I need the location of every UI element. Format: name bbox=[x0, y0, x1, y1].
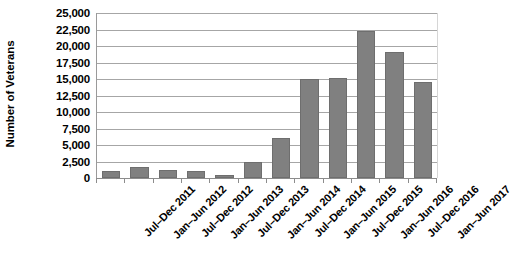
bar[interactable] bbox=[187, 171, 205, 178]
bars-container bbox=[97, 13, 437, 178]
bar-slot bbox=[295, 13, 323, 178]
bar-slot bbox=[210, 13, 238, 178]
bar-slot bbox=[125, 13, 153, 178]
bar-slot bbox=[154, 13, 182, 178]
y-axis-tick-labels: 02,5005,0007,50010,00012,50015,00017,500… bbox=[20, 7, 94, 185]
y-axis-tick-label: 10,000 bbox=[56, 106, 90, 118]
bar[interactable] bbox=[102, 171, 120, 178]
y-axis-tick-label: 5,000 bbox=[62, 139, 90, 151]
y-axis-title-text: Number of Veterans bbox=[4, 41, 16, 148]
x-axis-tick bbox=[436, 178, 437, 183]
bar[interactable] bbox=[300, 79, 318, 178]
bar[interactable] bbox=[130, 167, 148, 178]
bar[interactable] bbox=[414, 82, 432, 178]
bar[interactable] bbox=[244, 162, 262, 178]
bar-slot bbox=[182, 13, 210, 178]
y-axis-tick-label: 22,500 bbox=[56, 24, 90, 36]
bar-slot bbox=[352, 13, 380, 178]
y-axis-tick-label: 0 bbox=[84, 172, 90, 184]
bar-slot bbox=[409, 13, 437, 178]
plot-area bbox=[96, 13, 438, 178]
bar-slot bbox=[239, 13, 267, 178]
bar[interactable] bbox=[385, 52, 403, 178]
bar[interactable] bbox=[159, 170, 177, 178]
x-axis-tick-labels: Jul–Dec 2011Jan–Jun 2012Jul–Dec 2012Jan–… bbox=[96, 183, 436, 253]
bar[interactable] bbox=[272, 138, 290, 178]
bar-slot bbox=[97, 13, 125, 178]
y-axis-tick-label: 12,500 bbox=[56, 90, 90, 102]
bar[interactable] bbox=[329, 78, 347, 178]
y-axis-title: Number of Veterans bbox=[0, 0, 20, 188]
y-axis-tick-label: 17,500 bbox=[56, 57, 90, 69]
y-axis-tick-label: 25,000 bbox=[56, 7, 90, 19]
bar-slot bbox=[324, 13, 352, 178]
bar[interactable] bbox=[357, 31, 375, 178]
y-axis-tick-label: 2,500 bbox=[62, 156, 90, 168]
y-axis-tick-label: 20,000 bbox=[56, 40, 90, 52]
y-axis-tick-label: 7,500 bbox=[62, 123, 90, 135]
y-axis-tick-label: 15,000 bbox=[56, 73, 90, 85]
bar-slot bbox=[380, 13, 408, 178]
bar-slot bbox=[267, 13, 295, 178]
